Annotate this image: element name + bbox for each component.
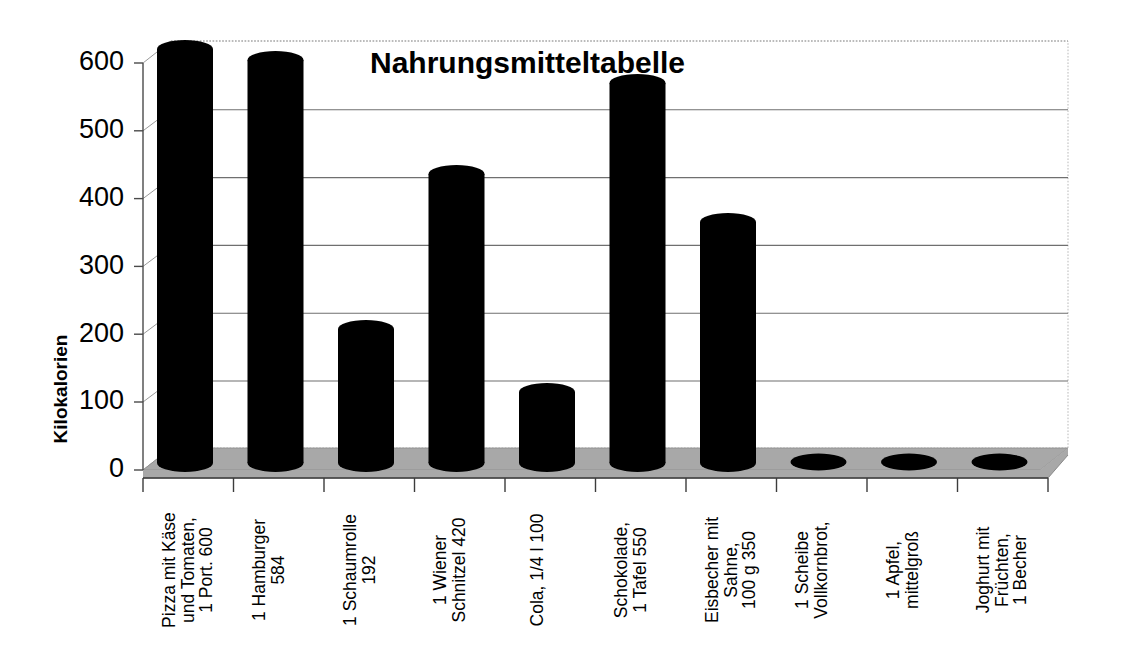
- category-label-8: 1 Apfel, mittelgroß: [884, 490, 921, 650]
- chart-root: 600 500 400 300 200 100 0 Kilokalorien N…: [0, 0, 1123, 656]
- category-label-0: Pizza mit Käse und Tomaten, 1 Port. 600: [160, 490, 216, 650]
- category-label-6: Eisbecher mit Sahne, 100 g 350: [703, 490, 759, 650]
- category-label-2: 1 Schaumrolle 192: [341, 490, 378, 650]
- category-label-1: 1 Hamburger 584: [250, 490, 287, 650]
- category-label-3: 1 Wiener Schnitzel 420: [431, 490, 468, 650]
- category-label-5: Schokolade, 1 Tafel 550: [612, 490, 649, 650]
- category-label-7: 1 Scheibe Vollkornbrot,: [793, 490, 830, 650]
- category-labels: Pizza mit Käse und Tomaten, 1 Port. 600 …: [0, 0, 1123, 656]
- category-label-9: Joghurt mit Früchten, 1 Becher: [974, 490, 1030, 650]
- category-label-4: Cola, 1/4 l 100: [528, 490, 547, 650]
